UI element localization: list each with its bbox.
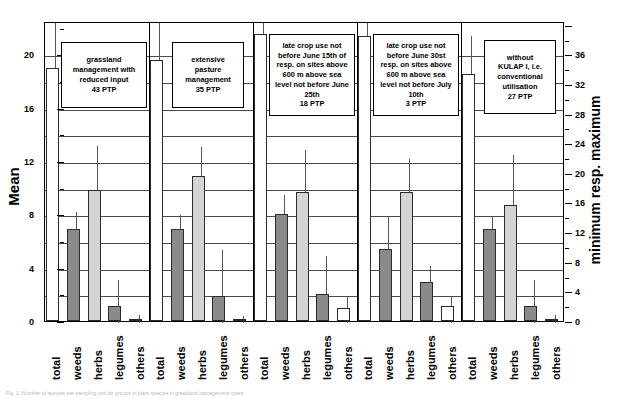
x-axis-category-labels: totalweedsherbslegumesotherstotalweedshe… <box>44 324 564 382</box>
y-tick-left <box>57 215 64 216</box>
bar-herbs <box>192 176 205 321</box>
x-axis-label-total: total <box>154 357 166 380</box>
y-tick-left <box>57 322 64 323</box>
x-axis-label-others: others <box>550 346 562 380</box>
x-axis-label-weeds: weeds <box>175 346 187 380</box>
y-tick-left <box>60 29 64 30</box>
bar-weeds <box>171 229 184 321</box>
bar-others <box>337 308 350 321</box>
x-axis-label-total: total <box>362 357 374 380</box>
y-tick-right <box>565 70 569 71</box>
chart-figure: Mean minimum resp. maximum 048121620 048… <box>0 0 628 405</box>
bar-others <box>545 319 558 321</box>
annotation-text: late crop use not before June 15th of re… <box>273 41 351 109</box>
y-tick-right <box>565 174 572 175</box>
x-axis-label-total: total <box>258 357 270 380</box>
gridline-minor <box>45 190 563 191</box>
y-tick-right <box>565 26 572 27</box>
y-tick-label-right: 4 <box>575 287 601 297</box>
x-axis-label-legumes: legumes <box>217 335 229 380</box>
y-tick-label-left: 12 <box>4 157 34 167</box>
x-axis-label-legumes: legumes <box>425 335 437 380</box>
y-tick-label-right: 36 <box>575 50 601 60</box>
ann-5: without KULAP I, i.e. conventional utili… <box>484 40 556 114</box>
x-axis-label-legumes: legumes <box>529 335 541 380</box>
y-tick-left <box>57 269 64 270</box>
y-tick-label-right: 20 <box>575 169 601 179</box>
bar-weeds <box>275 214 288 321</box>
bar-others <box>233 319 246 321</box>
y-tick-right <box>565 189 569 190</box>
gridline <box>45 163 563 164</box>
y-tick-right <box>565 144 572 145</box>
y-tick-label-left: 20 <box>4 50 34 60</box>
bar-total <box>150 60 163 321</box>
y-tick-label-right: 28 <box>575 110 601 120</box>
y-tick-right <box>565 55 572 56</box>
annotation-text: grassland management with reduced input … <box>65 55 143 94</box>
y-tick-left <box>60 189 64 190</box>
y-tick-right <box>565 307 569 308</box>
x-axis-label-others: others <box>134 346 146 380</box>
y-tick-label-left: 16 <box>4 104 34 114</box>
y-tick-right <box>565 129 569 130</box>
annotation-text: without KULAP I, i.e. conventional utili… <box>488 53 552 102</box>
bar-legumes <box>316 294 329 321</box>
y-tick-label-right: 8 <box>575 258 601 268</box>
x-axis-label-weeds: weeds <box>383 346 395 380</box>
gridline-minor <box>45 136 563 137</box>
bar-total <box>46 68 59 321</box>
x-axis-label-others: others <box>342 346 354 380</box>
y-tick-right <box>565 278 569 279</box>
y-tick-left <box>57 162 64 163</box>
y-tick-label-right: 24 <box>575 139 601 149</box>
x-axis-label-total: total <box>466 357 478 380</box>
ann-3: late crop use not before June 15th of re… <box>269 34 355 116</box>
bar-herbs <box>296 192 309 321</box>
y-tick-left <box>57 109 64 110</box>
y-tick-right <box>565 159 569 160</box>
bar-total <box>254 34 267 321</box>
x-axis-label-legumes: legumes <box>321 335 333 380</box>
bar-herbs <box>504 205 517 321</box>
y-tick-label-right: 0 <box>575 317 601 327</box>
y-tick-label-right: 32 <box>575 80 601 90</box>
bar-total <box>358 36 371 321</box>
y-tick-left <box>60 135 64 136</box>
y-tick-right <box>565 41 569 42</box>
bar-legumes <box>524 306 537 321</box>
x-axis-label-herbs: herbs <box>300 350 312 380</box>
bar-others <box>129 319 142 321</box>
bar-herbs <box>88 190 101 321</box>
annotation-text: late crop use not before June 30st resp.… <box>377 41 455 109</box>
y-tick-right <box>565 218 569 219</box>
y-tick-right <box>565 322 572 323</box>
bar-weeds <box>379 249 392 321</box>
x-axis-label-herbs: herbs <box>508 350 520 380</box>
y-tick-right <box>565 203 572 204</box>
x-axis-label-herbs: herbs <box>196 350 208 380</box>
ann-1: grassland management with reduced input … <box>61 42 147 108</box>
y-tick-right <box>565 263 572 264</box>
y-tick-left <box>60 242 64 243</box>
ann-2: extensive pasture management 35 PTP <box>172 42 244 108</box>
x-axis-label-weeds: weeds <box>487 346 499 380</box>
annotation-text: extensive pasture management 35 PTP <box>176 55 240 94</box>
x-axis-label-total: total <box>50 357 62 380</box>
y-tick-right <box>565 85 572 86</box>
bar-legumes <box>108 306 121 321</box>
y-tick-right <box>565 100 569 101</box>
y-tick-label-left: 0 <box>4 317 34 327</box>
figure-caption: Fig. 1: Number of species per sampling u… <box>6 390 436 396</box>
x-axis-label-legumes: legumes <box>113 335 125 380</box>
x-axis-label-others: others <box>238 346 250 380</box>
bar-herbs <box>400 192 413 321</box>
y-tick-label-left: 8 <box>4 210 34 220</box>
bar-legumes <box>420 282 433 321</box>
x-axis-label-weeds: weeds <box>71 346 83 380</box>
bar-total <box>462 74 475 321</box>
y-tick-label-right: 12 <box>575 228 601 238</box>
bar-weeds <box>483 229 496 321</box>
x-axis-label-others: others <box>446 346 458 380</box>
bar-others <box>441 306 454 321</box>
